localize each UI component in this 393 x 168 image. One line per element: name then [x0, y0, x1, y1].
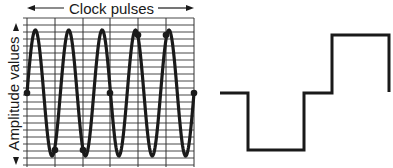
sample-dot	[163, 32, 170, 39]
step-waveform	[220, 35, 389, 150]
down-arrow-icon	[13, 157, 19, 165]
left-arrow-icon	[27, 5, 35, 11]
amplitude-values-label: Amplitude values	[6, 34, 21, 154]
sampling-diagram	[0, 0, 393, 168]
right-arrow-icon	[186, 5, 194, 11]
sample-dot	[80, 147, 87, 154]
sample-dot	[24, 90, 31, 97]
sample-dot	[52, 147, 59, 154]
sample-dot	[191, 90, 198, 97]
sample-dot	[135, 32, 142, 39]
sample-dot	[107, 90, 114, 97]
clock-pulses-label: Clock pulses	[66, 1, 157, 16]
up-arrow-icon	[13, 23, 19, 31]
